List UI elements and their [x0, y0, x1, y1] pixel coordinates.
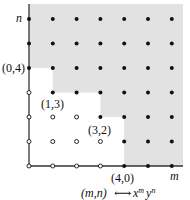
ideal-point: [122, 42, 126, 46]
ideal-point: [122, 164, 126, 168]
ideal-point: [146, 66, 150, 70]
ideal-point: [170, 140, 174, 144]
n-axis-label: n: [16, 11, 22, 25]
ideal-point: [75, 91, 79, 95]
non-ideal-point: [27, 140, 31, 144]
ideal-point: [75, 66, 79, 70]
ideal-point: [170, 115, 174, 119]
ideal-point: [51, 17, 55, 21]
non-ideal-point: [51, 115, 55, 119]
non-ideal-point: [75, 164, 79, 168]
non-ideal-point: [27, 91, 31, 95]
ideal-point: [170, 17, 174, 21]
ideal-point: [51, 91, 55, 95]
caption-arrow: ⟷: [114, 186, 131, 200]
ideal-point: [122, 17, 126, 21]
ideal-point: [27, 42, 31, 46]
monomial-ideal-diagram: n m (0,4) (1,3) (3,2) (4,0) (m,n) ⟷ xmyn: [0, 0, 190, 200]
ideal-point: [122, 140, 126, 144]
ideal-point: [27, 17, 31, 21]
ideal-point: [146, 140, 150, 144]
ideal-point: [75, 17, 79, 21]
ideal-point: [122, 115, 126, 119]
ideal-point: [146, 164, 150, 168]
caption-monomial: xmyn: [132, 186, 155, 200]
generator-label-1-3: (1,3): [41, 97, 64, 111]
caption: (m,n) ⟷ xmyn: [81, 186, 155, 200]
ideal-point: [122, 91, 126, 95]
ideal-point: [170, 164, 174, 168]
ideal-point: [170, 66, 174, 70]
generator-label-0-4: (0,4): [2, 61, 25, 75]
non-ideal-point: [27, 115, 31, 119]
ideal-point: [98, 91, 102, 95]
non-ideal-point: [27, 164, 31, 168]
ideal-point: [75, 42, 79, 46]
ideal-point: [27, 66, 31, 70]
caption-pair: (m,n): [81, 186, 107, 200]
ideal-point: [146, 42, 150, 46]
ideal-point: [98, 17, 102, 21]
m-axis-label: m: [170, 169, 179, 183]
ideal-point: [98, 66, 102, 70]
generator-label-3-2: (3,2): [88, 123, 111, 137]
ideal-point: [146, 115, 150, 119]
ideal-point: [170, 42, 174, 46]
non-ideal-point: [98, 164, 102, 168]
ideal-point: [51, 66, 55, 70]
non-ideal-point: [98, 140, 102, 144]
ideal-point: [170, 91, 174, 95]
ideal-point: [51, 42, 55, 46]
generator-label-4-0: (4,0): [111, 171, 134, 185]
non-ideal-point: [51, 140, 55, 144]
non-ideal-point: [75, 140, 79, 144]
non-ideal-point: [51, 164, 55, 168]
ideal-point: [146, 17, 150, 21]
ideal-point: [122, 66, 126, 70]
ideal-point: [98, 115, 102, 119]
ideal-point: [146, 91, 150, 95]
non-ideal-point: [75, 115, 79, 119]
ideal-point: [98, 42, 102, 46]
